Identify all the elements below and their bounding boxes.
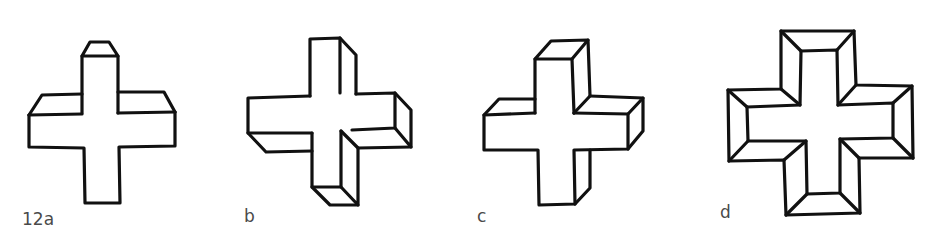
figure-label-c: c — [477, 208, 486, 225]
cross-figure-b — [248, 38, 411, 205]
figure-label-d: d — [720, 204, 731, 221]
figure-label-a: 12a — [22, 211, 54, 228]
figure-canvas — [0, 0, 936, 248]
cross-figure-c — [484, 40, 643, 205]
cross-figure-d — [728, 31, 913, 215]
cross-figure-a — [29, 42, 175, 203]
figure-label-b: b — [244, 208, 255, 225]
